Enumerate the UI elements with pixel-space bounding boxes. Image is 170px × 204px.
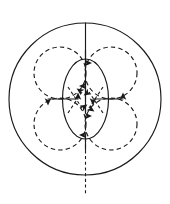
figure-root: [0, 0, 170, 204]
dashed-circle-top-right: [85, 47, 137, 99]
diagonal-arrow-upper-left: [68, 92, 82, 113]
dashed-circle-bottom-right: [85, 98, 137, 150]
diagonal-arrow-upper-right: [89, 92, 103, 113]
dashed-circle-bottom-left: [34, 98, 86, 150]
diagram-canvas: [0, 0, 170, 204]
dashed-circle-top-left: [34, 47, 86, 99]
